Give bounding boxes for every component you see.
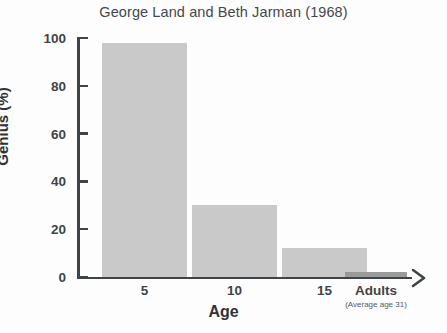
x-axis-arrow-icon (409, 267, 431, 289)
y-tick-label: 40 (26, 174, 66, 189)
y-axis-title: Genius (%) (0, 87, 11, 165)
y-tick-label: 80 (26, 78, 66, 93)
bars-layer (77, 38, 407, 277)
x-tick-label: Adults (355, 283, 397, 298)
bar (345, 272, 407, 277)
chart-title: George Land and Beth Jarman (1968) (0, 4, 447, 20)
x-tick-label: 5 (141, 283, 149, 298)
y-tick-label: 100 (26, 31, 66, 46)
bar (102, 43, 187, 277)
y-tick-label: 60 (26, 126, 66, 141)
y-tick-label: 0 (26, 270, 66, 285)
x-axis-title: Age (0, 303, 447, 321)
x-tick-label: 15 (317, 283, 332, 298)
x-tick-label: 10 (227, 283, 242, 298)
bar (192, 205, 277, 277)
y-tick-label: 20 (26, 222, 66, 237)
chart-container: George Land and Beth Jarman (1968) Geniu… (0, 0, 447, 333)
